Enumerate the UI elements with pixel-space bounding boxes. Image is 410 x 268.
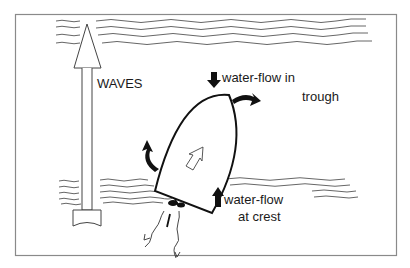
crest-label-line1: water-flow	[224, 193, 283, 206]
waves-label: WAVES	[97, 77, 143, 90]
crest-label-line2: at crest	[238, 210, 281, 223]
trough-label-line2: trough	[302, 90, 339, 103]
stern-turn-arrow-icon	[142, 140, 159, 172]
trough-label-line1: water-flow in	[222, 71, 295, 84]
waves-direction-arrow-icon	[73, 24, 101, 226]
prop-wash-arrows	[144, 211, 180, 258]
propeller-icon	[167, 199, 185, 227]
bow-turn-arrow-icon	[232, 93, 261, 106]
top-waves	[56, 19, 372, 45]
diagram-canvas: WAVES water-flow in trough water-flow at…	[0, 0, 410, 268]
down-arrow-icon	[207, 72, 221, 88]
